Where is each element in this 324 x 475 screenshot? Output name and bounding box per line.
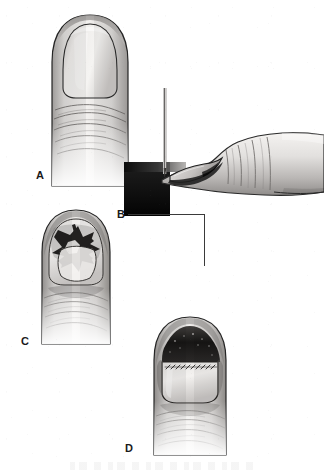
leader-line-b-vertical <box>204 214 205 266</box>
caption-smudge <box>70 462 255 470</box>
illustration-plate: A <box>0 0 324 475</box>
hand-lateral-b <box>162 133 324 196</box>
panel-label-a: A <box>36 170 44 181</box>
needle-instrument-b <box>163 88 166 178</box>
panel-d-figure <box>140 310 250 460</box>
leader-line-b-horizontal <box>128 214 204 215</box>
panel-b-figure <box>124 88 324 216</box>
panel-c-figure <box>28 204 134 349</box>
panel-label-d: D <box>125 443 133 454</box>
panel-label-c: C <box>21 336 29 347</box>
